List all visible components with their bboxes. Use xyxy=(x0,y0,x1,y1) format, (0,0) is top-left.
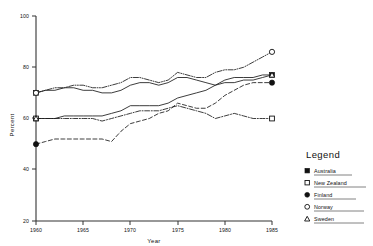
y-tick-label-20: 20 xyxy=(23,218,29,224)
endpoint-marker-norway-start xyxy=(33,90,38,95)
legend-item-sweden[interactable]: Sweden xyxy=(305,216,364,223)
line-chart: 100 80 60 40 20 1960 1965 1970 1975 1980… xyxy=(0,0,373,246)
triangle-icon xyxy=(305,216,310,221)
endpoint-marker-new-zealand-end xyxy=(270,116,275,121)
endpoint-marker-finland-start xyxy=(33,142,38,147)
legend-label-finland: Finland xyxy=(314,192,332,198)
series-group xyxy=(36,52,272,144)
legend-item-norway[interactable]: Norway xyxy=(305,204,364,211)
y-axis-title: Percent xyxy=(9,114,15,137)
legend-label-norway: Norway xyxy=(314,204,333,210)
filled-square-icon xyxy=(305,169,309,173)
legend-item-finland[interactable]: Finland xyxy=(305,192,356,199)
legend-item-new-zealand[interactable]: New Zealand xyxy=(305,180,366,187)
x-tick-label-1985: 1985 xyxy=(266,227,278,233)
endpoint-marker-norway-end xyxy=(269,49,274,54)
x-tick-label-1970: 1970 xyxy=(124,227,136,233)
legend-item-australia[interactable]: Australia xyxy=(305,168,352,175)
x-tick-labels: 1960 1965 1970 1975 1980 1985 xyxy=(30,227,278,233)
x-tick-label-1975: 1975 xyxy=(172,227,184,233)
legend-title: Legend xyxy=(306,149,340,160)
y-tick-labels: 100 80 60 40 20 xyxy=(20,13,29,224)
x-tick-label-1965: 1965 xyxy=(77,227,89,233)
x-tick-label-1980: 1980 xyxy=(219,227,231,233)
open-square-icon xyxy=(305,181,309,185)
series-line-new-zealand xyxy=(36,106,272,121)
legend: Legend Australia New Zealand Finland xyxy=(305,149,366,223)
y-tick-label-100: 100 xyxy=(20,13,29,19)
series-endpoint-markers xyxy=(33,49,274,146)
axes-group xyxy=(32,16,272,225)
series-line-finland xyxy=(36,83,272,145)
y-tick-label-60: 60 xyxy=(23,115,29,121)
series-line-norway xyxy=(36,52,272,93)
legend-label-australia: Australia xyxy=(314,168,336,174)
filled-circle-icon xyxy=(305,192,310,197)
y-tick-label-80: 80 xyxy=(23,64,29,70)
x-axis-title: Year xyxy=(147,238,160,244)
y-tick-label-40: 40 xyxy=(23,166,29,172)
legend-label-new-zealand: New Zealand xyxy=(314,180,347,186)
x-tick-label-1960: 1960 xyxy=(30,227,42,233)
open-circle-icon xyxy=(305,204,310,209)
endpoint-marker-finland-end xyxy=(269,80,274,85)
series-line-australia xyxy=(36,75,272,93)
legend-label-sweden: Sweden xyxy=(314,216,334,222)
chart-figure: 100 80 60 40 20 1960 1965 1970 1975 1980… xyxy=(0,0,373,246)
